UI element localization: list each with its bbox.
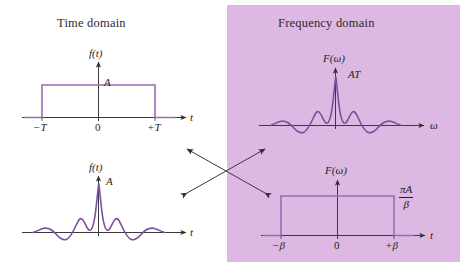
fourier-transform-pairs-figure: Time domain Frequency domain [0, 0, 467, 273]
plot-time-sinc-amplitude-label: A [106, 175, 113, 187]
plot-freq-sinc-x-label: ω [430, 119, 438, 131]
plot-time-rect-x-label: t [190, 111, 193, 123]
amplitude-numerator: πA [399, 184, 413, 198]
plot-freq-rect-y-label: F(ω) [325, 164, 347, 176]
plot-freq-rect-amplitude-label: πA β [399, 184, 413, 210]
plot-freq-sinc-y-label: F(ω) [323, 52, 345, 64]
plot-time-rect-tick-left: −T [33, 121, 47, 133]
plot-time-rect-tick-right: +T [147, 121, 161, 133]
plot-time-rect-y-label: f(t) [89, 47, 102, 59]
plot-time-sinc-x-label: t [190, 226, 193, 238]
plot-time-rect-amplitude-label: A [104, 76, 111, 88]
connector-arrows [187, 149, 265, 193]
amplitude-denominator: β [399, 198, 413, 211]
figure-vector-art [0, 0, 467, 273]
plot-freq-rect-tick-center: 0 [334, 239, 340, 251]
plot-freq-rect-tick-right: +β [385, 239, 398, 251]
plot-freq-rect-x-label: t [430, 229, 433, 241]
pulse-curve [263, 196, 414, 236]
plot-freq-sinc-amplitude-label: AT [348, 68, 360, 80]
plot-time-sinc [22, 176, 186, 240]
plot-time-rect-tick-center: 0 [95, 121, 101, 133]
plot-time-sinc-y-label: f(t) [89, 161, 102, 173]
plot-time-rect [22, 62, 186, 121]
pulse-curve [24, 85, 175, 118]
plot-freq-rect-tick-left: −β [272, 239, 285, 251]
plot-freq-sinc [259, 68, 424, 133]
